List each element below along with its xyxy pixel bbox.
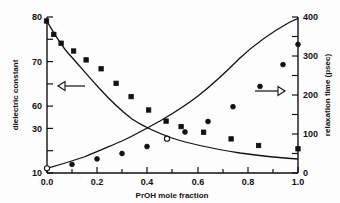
y-right-tick-100: 100 <box>303 129 318 139</box>
y-right-axis-title: relaxation time (psec) <box>323 54 332 137</box>
x-tick-0.2: 0.2 <box>91 177 104 187</box>
dielectric-relaxation-chart: 80 70 60 30 10 400 300 200 100 0 0.0 0.2… <box>0 0 340 203</box>
series-dielectric-constant-line <box>47 22 298 160</box>
x-tick-0.4: 0.4 <box>141 177 154 187</box>
y-left-tick-30: 30 <box>32 124 42 134</box>
left-axis-arrow-icon <box>58 82 85 91</box>
x-tick-0.0: 0.0 <box>41 177 54 187</box>
x-tick-1.0: 1.0 <box>292 177 305 187</box>
y-left-axis-title: dielectric constant <box>11 59 20 130</box>
y-left-tick-70: 70 <box>32 57 42 67</box>
y-left-tick-80: 80 <box>32 12 42 22</box>
left-axis-ticks <box>47 17 53 173</box>
y-right-tick-400: 400 <box>303 12 318 22</box>
y-right-tick-300: 300 <box>303 51 318 61</box>
y-right-tick-200: 200 <box>303 90 318 100</box>
y-left-tick-60: 60 <box>32 101 42 111</box>
x-axis-title: PrOH mole fraction <box>136 191 209 200</box>
x-axis-ticks <box>47 167 298 173</box>
x-tick-0.6: 0.6 <box>192 177 205 187</box>
x-tick-0.8: 0.8 <box>242 177 255 187</box>
series-relaxation-time-markers <box>44 42 300 171</box>
figure-container: 80 70 60 30 10 400 300 200 100 0 0.0 0.2… <box>0 0 340 203</box>
